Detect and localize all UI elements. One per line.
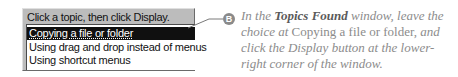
list-item-shortcut-menus[interactable]: Using shortcut menus — [27, 54, 195, 67]
list-item-copying[interactable]: Copying a file or folder — [27, 27, 195, 40]
step-badge-icon: B — [223, 13, 235, 25]
caption-topic-name: Copying a file or folder, — [292, 24, 417, 39]
dialog-prompt: Click a topic, then click Display. — [27, 11, 169, 23]
caption-text: In the — [241, 8, 274, 23]
caption-window-name: Topics Found — [274, 8, 348, 23]
topics-found-dialog: Click a topic, then click Display. Copyi… — [22, 8, 195, 71]
list-item-drag-drop[interactable]: Using drag and drop instead of menus — [27, 41, 195, 54]
topics-listbox[interactable]: Copying a file or folder Using drag and … — [26, 24, 195, 70]
callout-caption: In the Topics Found window, leave the ch… — [241, 8, 456, 72]
caption-button-name: Display — [288, 40, 328, 55]
